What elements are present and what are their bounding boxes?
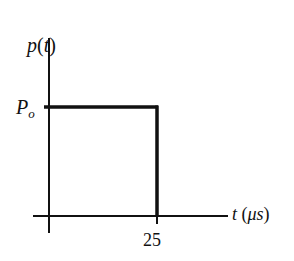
x-tick-label: 25 [143, 230, 161, 251]
amplitude-label: Po [16, 96, 35, 122]
x-axis-label: t (μs) [232, 204, 270, 225]
y-axis-label: p(t) [27, 34, 56, 57]
